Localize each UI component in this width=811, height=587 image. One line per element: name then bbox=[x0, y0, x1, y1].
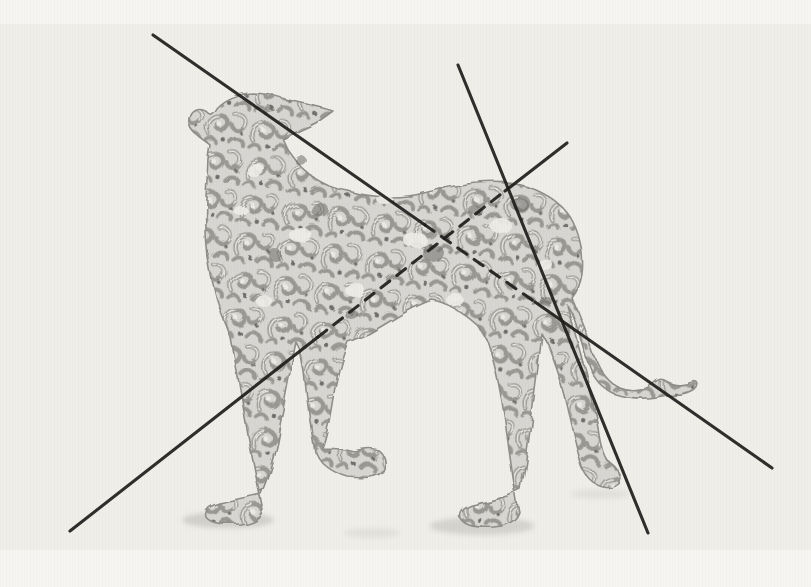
figure-canvas bbox=[0, 0, 811, 587]
ground-shadow-2 bbox=[344, 528, 400, 538]
scanned-figure bbox=[0, 0, 811, 587]
ground-shadow-4 bbox=[570, 489, 630, 499]
